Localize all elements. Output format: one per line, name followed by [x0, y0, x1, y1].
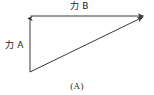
label-force-b: 力 B	[70, 2, 89, 12]
label-force-a-text: 力 A	[5, 40, 24, 50]
vector-resultant-line	[30, 17, 143, 72]
label-force-a: 力 A	[5, 41, 24, 51]
label-force-b-text: 力 B	[70, 1, 89, 11]
force-vector-figure: 力 A 力 B (A)	[0, 0, 154, 95]
figure-caption: (A)	[0, 81, 154, 91]
